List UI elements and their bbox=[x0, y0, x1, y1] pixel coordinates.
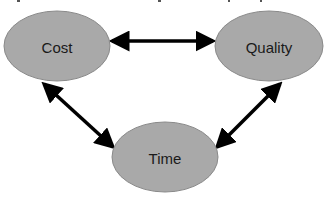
double-arrow-icon bbox=[44, 84, 113, 147]
clipped-glyph bbox=[228, 0, 230, 2]
node-label: Cost bbox=[42, 39, 74, 56]
clipped-glyph bbox=[158, 0, 161, 2]
node-label: Quality bbox=[246, 39, 293, 56]
node-time: Time bbox=[112, 122, 218, 192]
clipped-glyph bbox=[260, 0, 262, 2]
node-quality: Quality bbox=[215, 11, 323, 81]
diagram-svg: Cost Quality Time bbox=[0, 0, 328, 198]
node-cost: Cost bbox=[4, 11, 110, 81]
diagram-canvas: Cost Quality Time bbox=[0, 0, 328, 198]
double-arrow-icon bbox=[217, 84, 280, 147]
clipped-glyph bbox=[17, 0, 20, 2]
edge-cost-time bbox=[44, 84, 113, 147]
clipped-caption-remnant bbox=[0, 0, 328, 3]
node-label: Time bbox=[149, 150, 182, 167]
edge-quality-time bbox=[217, 84, 280, 147]
